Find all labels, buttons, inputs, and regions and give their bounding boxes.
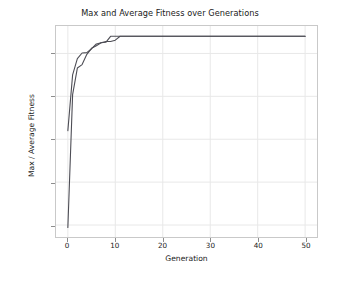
x-tick-mark bbox=[67, 238, 68, 242]
x-tick-label: 20 bbox=[143, 241, 183, 250]
plot-area bbox=[55, 25, 318, 238]
x-tick-mark bbox=[163, 238, 164, 242]
chart-title: Max and Average Fitness over Generations bbox=[0, 8, 340, 18]
x-tick-mark bbox=[115, 238, 116, 242]
x-tick-label: 30 bbox=[190, 241, 230, 250]
x-tick-mark bbox=[210, 238, 211, 242]
data-series-lines bbox=[56, 26, 317, 237]
x-tick-label: 50 bbox=[286, 241, 326, 250]
y-axis-label: Max / Average Fitness bbox=[27, 29, 36, 242]
x-tick-label: 10 bbox=[95, 241, 135, 250]
x-tick-mark bbox=[306, 238, 307, 242]
chart-figure: Max and Average Fitness over Generations… bbox=[0, 0, 340, 287]
x-tick-label: 40 bbox=[238, 241, 278, 250]
x-axis-label: Generation bbox=[55, 254, 318, 263]
x-tick-mark bbox=[258, 238, 259, 242]
series-line bbox=[68, 36, 305, 227]
series-line bbox=[68, 36, 305, 130]
x-tick-label: 0 bbox=[47, 241, 87, 250]
